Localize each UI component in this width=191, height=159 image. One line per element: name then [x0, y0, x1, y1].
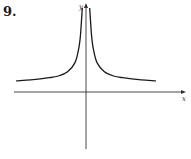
- curve-right-branch: [90, 8, 156, 81]
- y-axis-label: y: [78, 3, 84, 11]
- x-axis-arrow: [181, 90, 186, 94]
- x-axis-label: x: [182, 95, 186, 103]
- y-axis-arrow: [84, 3, 88, 8]
- curve-left-branch: [16, 8, 82, 81]
- graph: 9. y x: [0, 0, 191, 159]
- exercise-number: 9.: [3, 4, 17, 19]
